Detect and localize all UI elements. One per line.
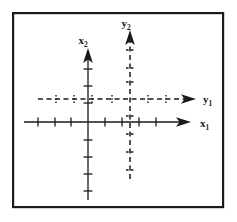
y1-axis-label-subscript: 1 [209,99,213,108]
x1-axis-label-subscript: 1 [206,123,210,132]
x2-axis-label-subscript: 2 [84,40,88,49]
coordinate-systems-figure: x2 y2 y1 x1 [0,0,237,222]
y2-axis-label-subscript: 2 [127,23,131,32]
figure-background [0,0,237,222]
figure-canvas: x2 y2 y1 x1 [0,0,237,222]
